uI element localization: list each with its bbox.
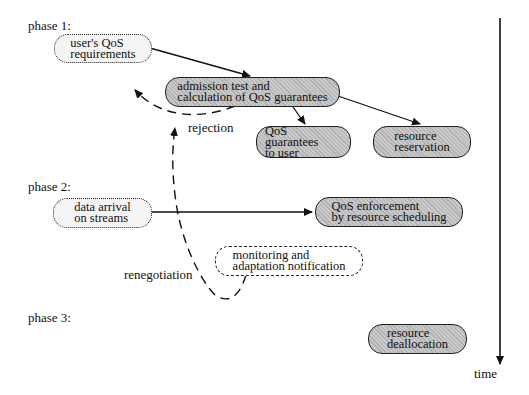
node-text: calculation of QoS guarantees — [177, 92, 327, 103]
edge-admission-to-guarantees — [293, 107, 305, 124]
node-resource-reservation: resourcereservation — [373, 126, 471, 158]
rejection-label: rejection — [188, 121, 233, 134]
node-text: requirements — [70, 49, 135, 60]
node-text: by resource scheduling — [331, 212, 446, 223]
time-axis-label: time — [474, 367, 497, 380]
node-qos-guarantees: QoS guaranteesto user — [256, 126, 351, 158]
node-monitoring: monitoring andadaptation notification — [215, 246, 363, 276]
edge-admission-to-reservation — [338, 96, 420, 124]
node-text: adaptation notification — [233, 261, 346, 272]
node-data-arrival: data arrivalon streams — [53, 198, 152, 228]
node-admission-test: admission test andcalculation of QoS gua… — [165, 77, 340, 107]
phase-1-label: phase 1: — [28, 19, 71, 32]
node-text: deallocation — [387, 339, 448, 350]
node-text: reservation — [394, 142, 450, 153]
node-resource-deallocation: resourcedeallocation — [368, 324, 467, 354]
phase-2-label: phase 2: — [28, 180, 71, 193]
node-text: on streams — [74, 213, 131, 224]
node-text: QoS guarantees — [265, 126, 342, 148]
renegotiation-label: renegotiation — [124, 268, 193, 281]
node-text: to user — [265, 148, 342, 159]
node-user-qos-requirements: user's QoSrequirements — [54, 34, 152, 63]
node-qos-enforcement: QoS enforcementby resource scheduling — [315, 197, 463, 227]
phase-3-label: phase 3: — [28, 311, 71, 324]
edge-user-to-admission — [150, 48, 250, 76]
